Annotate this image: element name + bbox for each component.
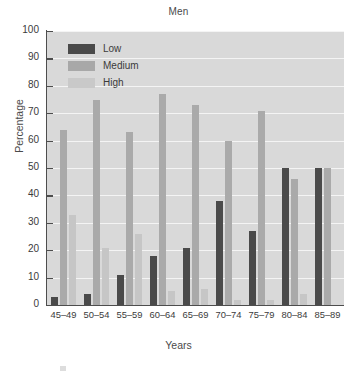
legend-item-medium: Medium (68, 57, 139, 74)
bar-medium-75-79 (258, 111, 265, 306)
legend-item-low: Low (68, 40, 139, 57)
y-tick-label: 50 (9, 161, 39, 172)
legend-swatch-medium (68, 61, 95, 71)
scan-edge (0, 365, 357, 371)
legend-label: High (103, 77, 124, 88)
bar-low-75-79 (249, 231, 256, 305)
bar-high-80-84 (300, 294, 307, 305)
bar-low-55-59 (117, 275, 124, 305)
x-axis-label: Years (0, 339, 357, 351)
bar-low-85-89 (315, 168, 322, 305)
y-tick-mark (47, 278, 53, 279)
y-tick-mark (47, 113, 53, 114)
bar-high-50-54 (102, 248, 109, 306)
y-tick-label: 40 (9, 188, 39, 199)
gridline (47, 31, 344, 32)
y-tick-label: 20 (9, 243, 39, 254)
y-tick-label: 100 (9, 24, 39, 35)
y-tick-mark (47, 168, 53, 169)
bar-medium-70-74 (225, 141, 232, 305)
bar-medium-45-49 (60, 130, 67, 305)
x-axis-line (46, 305, 344, 306)
legend-swatch-low (68, 44, 95, 54)
y-tick-label: 10 (9, 271, 39, 282)
bar-medium-85-89 (324, 168, 331, 305)
bar-high-45-49 (69, 215, 76, 305)
x-tick-label: 85–89 (308, 309, 348, 320)
y-tick-mark (47, 86, 53, 87)
y-tick-label: 90 (9, 51, 39, 62)
y-tick-mark (47, 31, 53, 32)
chart-title: Men (0, 6, 357, 17)
bar-low-70-74 (216, 201, 223, 305)
y-tick-mark (47, 250, 53, 251)
legend-swatch-high (68, 78, 95, 88)
y-tick-mark (47, 141, 53, 142)
chart-figure: Men Percentage Years 0102030405060708090… (0, 0, 357, 371)
y-tick-mark (47, 223, 53, 224)
legend-label: Medium (103, 60, 139, 71)
y-tick-label: 30 (9, 216, 39, 227)
y-tick-mark (47, 58, 53, 59)
y-tick-mark (47, 195, 53, 196)
bar-low-45-49 (51, 297, 58, 305)
scan-artifact (60, 366, 66, 371)
legend-item-high: High (68, 74, 139, 91)
bar-high-65-69 (201, 289, 208, 305)
y-tick-label: 0 (9, 298, 39, 309)
bar-low-60-64 (150, 256, 157, 305)
bar-low-65-69 (183, 248, 190, 306)
legend-label: Low (103, 43, 121, 54)
y-tick-mark (47, 305, 53, 306)
bar-high-60-64 (168, 291, 175, 305)
bar-medium-80-84 (291, 179, 298, 305)
chart-legend: LowMediumHigh (68, 40, 139, 91)
bar-medium-50-54 (93, 100, 100, 306)
bar-medium-55-59 (126, 132, 133, 305)
bar-low-50-54 (84, 294, 91, 305)
y-tick-label: 70 (9, 106, 39, 117)
y-tick-label: 80 (9, 79, 39, 90)
y-tick-label: 60 (9, 134, 39, 145)
bar-medium-65-69 (192, 105, 199, 305)
bar-medium-60-64 (159, 94, 166, 305)
bar-high-55-59 (135, 234, 142, 305)
bar-low-80-84 (282, 168, 289, 305)
